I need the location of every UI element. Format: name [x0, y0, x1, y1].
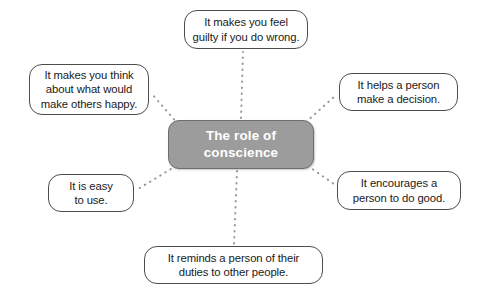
branch-node-top[interactable]: It makes you feel guilty if you do wrong… [184, 10, 308, 49]
branch-node-bottom[interactable]: It reminds a person of their duties to o… [144, 246, 323, 284]
branch-node-upper-left-label: It makes you think about what would make… [36, 68, 143, 111]
center-node[interactable]: The role of conscience [168, 120, 314, 169]
center-node-label: The role of conscience [204, 128, 278, 161]
connector-center-to-bottom [234, 171, 237, 244]
branch-node-bottom-label: It reminds a person of their duties to o… [163, 251, 305, 279]
branch-node-lower-left[interactable]: It is easy to use. [48, 174, 134, 212]
branch-node-lower-right[interactable]: It encourages a person to do good. [337, 171, 461, 210]
connector-center-to-lower-left [138, 166, 176, 189]
branch-node-top-label: It makes you feel guilty if you do wrong… [188, 15, 305, 43]
branch-node-upper-right[interactable]: It helps a person make a decision. [339, 73, 458, 111]
connector-center-to-right [306, 96, 335, 122]
branch-node-upper-right-label: It helps a person make a decision. [352, 78, 445, 106]
connector-center-to-top [241, 52, 243, 118]
diagram-canvas: The role of conscience It makes you feel… [0, 0, 488, 290]
branch-node-lower-left-label: It is easy to use. [64, 179, 118, 207]
branch-node-lower-right-label: It encourages a person to do good. [348, 176, 450, 204]
branch-node-upper-left[interactable]: It makes you think about what would make… [29, 64, 149, 115]
connector-center-to-left [152, 94, 178, 124]
connector-center-to-lower-right [308, 166, 334, 184]
